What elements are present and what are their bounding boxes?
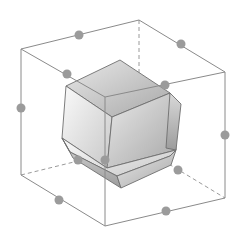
midpoint-dot-icon xyxy=(174,166,183,175)
midpoint-dot-icon xyxy=(17,104,26,113)
midpoint-dot-icon xyxy=(162,207,171,216)
midpoint-dot-icon xyxy=(75,31,84,40)
midpoint-dot-icon xyxy=(63,70,72,79)
midpoint-dot-icon xyxy=(55,196,64,205)
figure-canvas xyxy=(0,0,241,240)
midpoint-dot-icon xyxy=(101,156,110,165)
midpoint-dot-icon xyxy=(221,131,230,140)
midpoint-dot-icon xyxy=(74,156,83,165)
cube-polyhedron-diagram xyxy=(0,0,241,240)
midpoint-dot-icon xyxy=(161,81,170,90)
midpoint-dot-icon xyxy=(177,40,186,49)
polyhedron xyxy=(62,60,181,188)
